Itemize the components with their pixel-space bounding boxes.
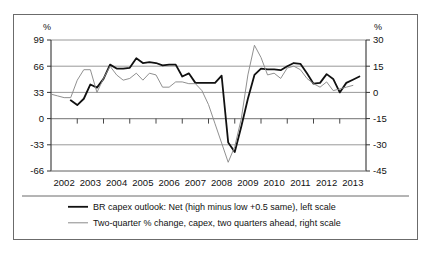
right-axis-tick-label: -45 bbox=[373, 165, 387, 176]
left-axis-unit-label: % bbox=[43, 22, 51, 32]
left-axis-tick-label: 0 bbox=[39, 113, 44, 124]
x-axis-year-label: 2006 bbox=[159, 177, 180, 188]
chart-plot-area: 9966330-33-6630150-15-30-45%%20022003200… bbox=[0, 0, 431, 254]
x-axis-year-label: 2009 bbox=[237, 177, 258, 188]
x-axis-year-label: 2007 bbox=[185, 177, 206, 188]
x-axis-year-label: 2010 bbox=[264, 177, 285, 188]
x-axis-year-label: 2004 bbox=[106, 177, 127, 188]
right-axis-tick-label: 0 bbox=[373, 87, 378, 98]
x-axis-year-label: 2008 bbox=[211, 177, 232, 188]
right-axis-tick-label: 15 bbox=[373, 61, 384, 72]
legend-label-0: BR capex outlook: Net (high minus low +0… bbox=[93, 202, 336, 212]
x-axis-year-label: 2011 bbox=[290, 177, 310, 188]
left-axis-tick-label: 66 bbox=[33, 61, 44, 72]
left-axis-tick-label: -66 bbox=[30, 165, 44, 176]
x-axis-year-label: 2003 bbox=[80, 177, 101, 188]
right-axis-tick-label: 30 bbox=[373, 34, 384, 45]
right-axis-unit-label: % bbox=[374, 22, 382, 32]
x-axis-year-label: 2005 bbox=[132, 177, 153, 188]
left-axis-tick-label: 33 bbox=[33, 87, 44, 98]
x-axis-year-label: 2012 bbox=[316, 177, 337, 188]
x-axis-year-label: 2002 bbox=[54, 177, 75, 188]
x-axis-year-label: 2013 bbox=[342, 177, 363, 188]
left-axis-tick-label: -33 bbox=[30, 139, 44, 150]
legend-label-1: Two-quarter % change, capex, two quarter… bbox=[93, 218, 341, 228]
chart-figure: 9966330-33-6630150-15-30-45%%20022003200… bbox=[0, 0, 431, 254]
data-series-line-0 bbox=[71, 58, 360, 152]
right-axis-tick-label: -30 bbox=[373, 139, 387, 150]
right-axis-tick-label: -15 bbox=[373, 113, 387, 124]
left-axis-tick-label: 99 bbox=[33, 34, 44, 45]
